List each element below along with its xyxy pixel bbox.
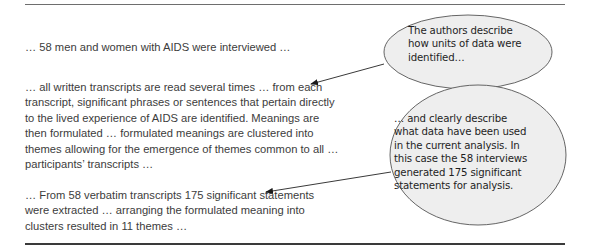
callout-line: in the current analysis. In: [394, 139, 527, 152]
callout-line: what data have been used: [394, 125, 527, 138]
callout-line: identified…: [408, 51, 521, 64]
callout-line: … and clearly describe: [394, 112, 527, 125]
callout-text-data-used: … and clearly describe what data have be…: [394, 112, 527, 192]
annotated-excerpt-page: … 58 men and women with AIDS were interv…: [0, 0, 590, 251]
callout-line: this case the 58 interviews: [394, 152, 527, 165]
callout-line: generated 175 significant: [394, 166, 527, 179]
arrow-to-quote-method: [311, 64, 384, 84]
arrow-to-quote-statements: [266, 172, 391, 192]
bottom-divider: [25, 243, 565, 245]
callout-line: how units of data were: [408, 37, 521, 50]
callout-line: The authors describe: [408, 24, 521, 37]
callout-line: statements for analysis.: [394, 179, 527, 192]
callout-text-units: The authors describe how units of data w…: [408, 24, 521, 64]
